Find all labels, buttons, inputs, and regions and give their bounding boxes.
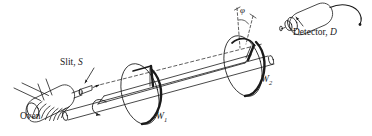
wheel-2-symbol: W [261,74,269,84]
wheel-1-label: W1 [156,112,167,123]
slit-label: Slit, S [60,58,83,68]
wheel-2-label: W2 [261,75,272,86]
detector-label-symbol: D [330,27,337,37]
detector-label-prefix: Detector, [293,27,328,37]
slit-nozzle [79,85,99,95]
slit-label-symbol: S [78,57,83,67]
velocity-selector-figure: Oven Slit, S W1 W2 Detector, D φ [0,0,372,136]
slit-leader [85,68,94,83]
wheel-1-symbol: W [156,111,164,121]
wheel-2 [218,31,269,100]
wheel-1-subscript: 1 [164,116,167,123]
angle-phi-label: φ [240,6,245,15]
figure-artwork [0,0,372,136]
detector-label: Detector, D [293,28,337,38]
slit-label-prefix: Slit, [60,57,76,67]
oven-label: Oven [20,112,41,122]
wheel-2-subscript: 2 [269,79,272,86]
